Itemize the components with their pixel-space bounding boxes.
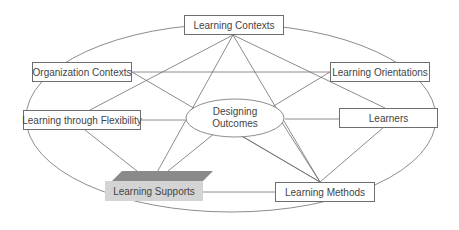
supports-3d-top xyxy=(112,171,213,181)
node-organization-contexts: Organization Contexts xyxy=(32,62,132,82)
node-learning-through-flexibility: Learning through Flexibility xyxy=(23,110,141,130)
center-line1: Designing xyxy=(195,106,275,118)
center-node: Designing Outcomes xyxy=(195,106,275,130)
node-learning-supports: Learning Supports xyxy=(105,181,203,201)
node-learning-orientations: Learning Orientations xyxy=(330,62,430,82)
node-learning-contexts: Learning Contexts xyxy=(184,15,284,35)
center-line2: Outcomes xyxy=(195,118,275,130)
node-learners: Learners xyxy=(339,108,438,128)
node-learning-methods: Learning Methods xyxy=(275,182,375,202)
